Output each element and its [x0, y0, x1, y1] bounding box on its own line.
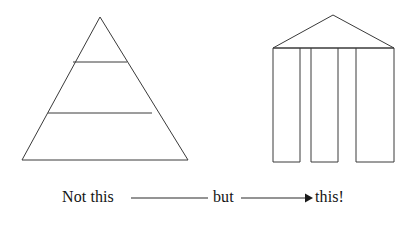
pyramid-group: [22, 17, 188, 160]
caption-but-label: but: [213, 189, 234, 205]
figure-canvas: Not this but this!: [0, 0, 410, 226]
temple-column-2: [311, 48, 338, 162]
temple-column-1: [273, 48, 300, 162]
pyramid-outline: [22, 17, 188, 160]
caption-this-label: this!: [315, 189, 344, 205]
temple-roof: [273, 15, 394, 48]
temple-column-3: [356, 48, 394, 162]
temple-group: [273, 15, 394, 162]
caption-not-this-label: Not this: [62, 189, 114, 205]
caption-arrow-head-icon: [305, 194, 313, 203]
